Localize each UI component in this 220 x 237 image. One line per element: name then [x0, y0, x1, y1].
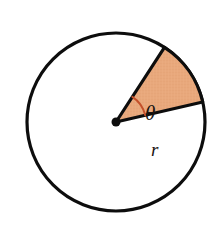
angle-label: θ: [145, 101, 155, 125]
radius-label: r: [151, 139, 159, 160]
shaded-sector: [116, 47, 203, 122]
figure-canvas: θ r: [0, 0, 220, 237]
circle-sector-figure: θ r: [0, 0, 220, 237]
center-point-dot: [112, 118, 121, 127]
